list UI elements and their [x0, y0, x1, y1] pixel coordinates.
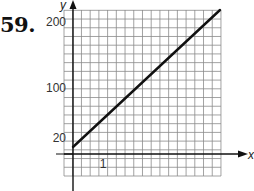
x-tick-label-1: 1 — [100, 157, 107, 171]
y-tick-label-200: 200 — [46, 15, 66, 29]
grid — [64, 10, 221, 176]
line-chart: x y 200 100 20 1 — [0, 0, 254, 191]
y-tick-label-20: 20 — [53, 131, 67, 145]
y-axis-arrow-icon — [70, 0, 77, 9]
data-line — [73, 10, 220, 147]
y-axis-label: y — [59, 0, 67, 12]
x-axis-arrow-icon — [238, 151, 248, 158]
y-tick-label-100: 100 — [46, 81, 66, 95]
x-axis-label: x — [247, 148, 254, 162]
